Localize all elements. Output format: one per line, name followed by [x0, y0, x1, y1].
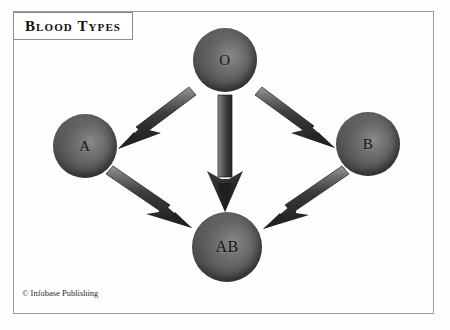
figure-title: Blood Types	[25, 18, 121, 35]
arrow-o-to-b	[255, 87, 335, 148]
copyright-credit: © Infobase Publishing	[22, 288, 98, 298]
node-label-ab: AB	[215, 238, 238, 256]
node-blood-type-ab[interactable]: AB	[192, 212, 262, 282]
node-label-o: O	[219, 52, 230, 69]
title-box: Blood Types	[13, 12, 133, 40]
node-label-a: A	[79, 138, 90, 155]
node-label-b: B	[363, 136, 374, 153]
node-blood-type-o[interactable]: O	[193, 28, 257, 92]
node-blood-type-b[interactable]: B	[336, 112, 400, 176]
arrow-b-to-ab	[263, 166, 349, 229]
arrow-o-to-a	[118, 87, 196, 149]
arrow-a-to-ab	[106, 166, 192, 228]
node-blood-type-a[interactable]: A	[53, 114, 117, 178]
arrow-o-to-ab	[207, 95, 243, 212]
blood-types-figure: O A B AB Blood Types © Infobase Publishi…	[0, 0, 450, 330]
